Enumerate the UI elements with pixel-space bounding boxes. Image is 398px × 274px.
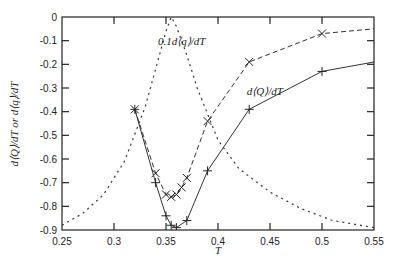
plus-marker [318,67,327,76]
x-marker [245,58,253,66]
x-marker [178,183,186,191]
plot-frame [62,17,374,230]
series-line-dashed [135,29,374,197]
y-tick-label: -0.5 [40,130,58,141]
y-tick-label: -0.4 [40,106,58,117]
plus-marker [172,223,181,232]
y-axis-label: d⟨Q⟩/dT or d⟨q⟩/dT [8,81,20,167]
x-marker [183,174,191,182]
y-tick-label: -0.1 [40,35,58,46]
x-axis-label: T [215,244,222,256]
x-tick-label: 0.35 [156,236,176,247]
annotation-0.1dq-dt: 0.1d⟨q⟩/dT [158,35,206,47]
y-tick-label: -0.3 [40,83,58,94]
x-tick-label: 0.55 [364,236,384,247]
x-tick-label: 0.45 [260,236,280,247]
y-tick-label: -0.2 [40,59,58,70]
plus-marker [167,221,176,230]
series-layer [62,17,374,232]
plus-marker [203,166,212,175]
chart: 0.250.30.350.40.450.50.550-0.1-0.2-0.3-0… [0,0,398,274]
x-tick-label: 0.3 [107,236,121,247]
series-line-dotted [62,17,374,228]
plus-marker [182,216,191,225]
annotations: 0.1d⟨q⟩/dTd⟨Q⟩/dT [158,35,284,97]
y-tick-label: -0.8 [40,201,58,212]
y-tick-label: 0 [51,12,57,23]
axis-ticks: 0.250.30.350.40.450.50.550-0.1-0.2-0.3-0… [40,12,384,248]
y-tick-label: -0.9 [40,225,58,236]
x-marker [318,30,326,38]
y-tick-label: -0.6 [40,154,58,165]
x-tick-label: 0.5 [315,236,329,247]
y-tick-label: -0.7 [40,177,58,188]
plus-marker [245,105,254,114]
x-tick-label: 0.25 [52,236,72,247]
annotation-dQ-dt: d⟨Q⟩/dT [247,85,284,97]
plus-marker [162,211,171,220]
